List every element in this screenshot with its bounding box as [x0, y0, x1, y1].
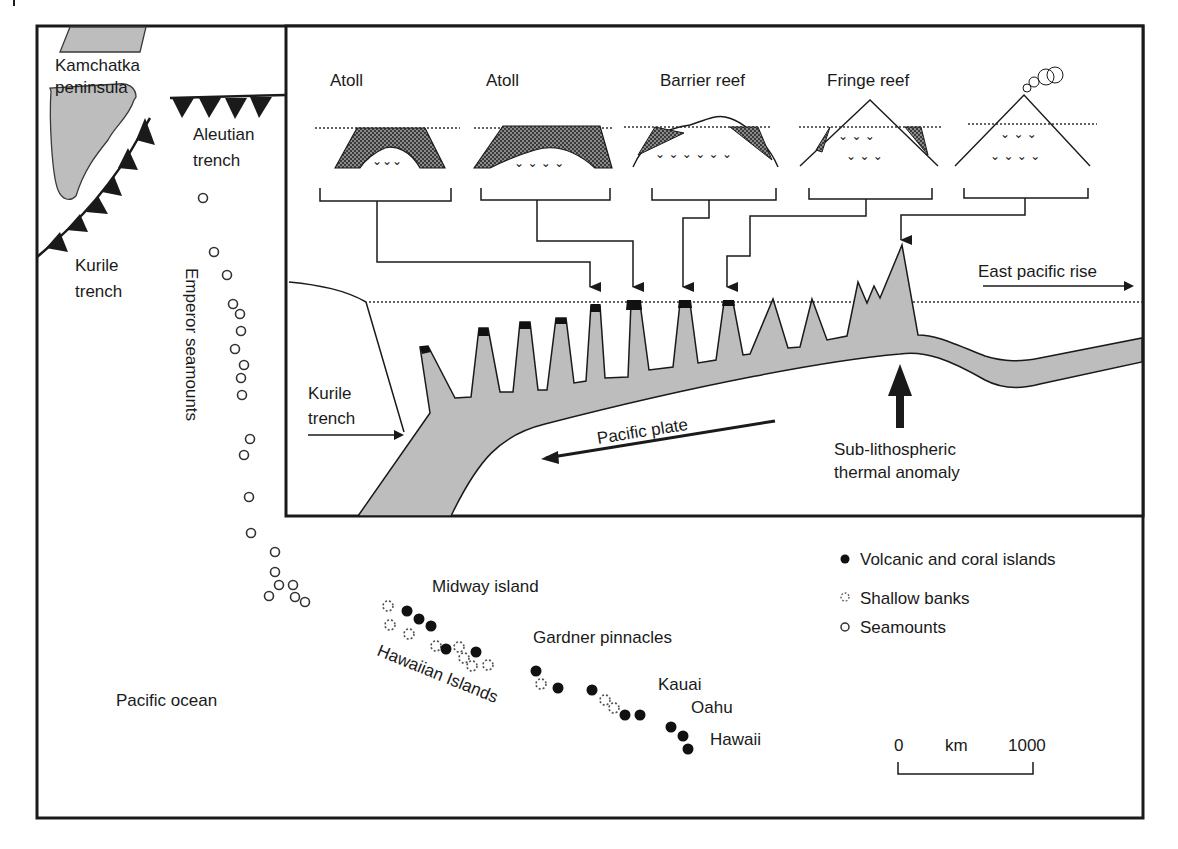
- stage-title-2: Atoll: [486, 71, 519, 90]
- legend: Volcanic and coral islands Shallow banks…: [841, 550, 1056, 637]
- stage-title-3: Barrier reef: [660, 71, 745, 90]
- inset-label-anomaly-2: thermal anomaly: [834, 463, 960, 482]
- hawaiian-emperor-chain-diagram: Kamchatka peninsula Aleutian trench Kuri…: [0, 0, 1178, 849]
- svg-text:⌄ ⌄ ⌄ ⌄: ⌄ ⌄ ⌄ ⌄: [990, 149, 1040, 163]
- legend-shallow-icon: [841, 593, 849, 601]
- legend-volcanic-icon: [841, 555, 850, 564]
- svg-text:⌄ ⌄ ⌄: ⌄ ⌄ ⌄: [846, 149, 883, 163]
- scale-end: 1000: [1008, 736, 1046, 755]
- inset-label-anomaly-1: Sub-lithospheric: [834, 440, 956, 459]
- label-hawaiian-islands: Hawaiian Islands: [375, 641, 501, 707]
- label-kamchatka-1: Kamchatka: [55, 56, 141, 75]
- inset-label-east-pacific-rise: East pacific rise: [978, 262, 1097, 281]
- aleutian-trench-symbol: [170, 95, 286, 119]
- stage-title-1: Atoll: [330, 71, 363, 90]
- label-kurile-1: Kurile: [75, 256, 118, 275]
- legend-seamount-label: Seamounts: [860, 618, 946, 637]
- label-emperor-seamounts: Emperor seamounts: [182, 268, 201, 421]
- legend-volcanic-label: Volcanic and coral islands: [860, 550, 1056, 569]
- scale-bar: 0 km 1000: [894, 736, 1046, 774]
- corner-mark: [13, 0, 15, 6]
- label-midway: Midway island: [432, 577, 539, 596]
- svg-text:⌄ ⌄ ⌄ ⌄ ⌄ ⌄: ⌄ ⌄ ⌄ ⌄ ⌄ ⌄: [655, 147, 732, 161]
- label-oahu: Oahu: [691, 698, 733, 717]
- label-aleutian-2: trench: [193, 151, 240, 170]
- label-aleutian-1: Aleutian: [193, 125, 254, 144]
- label-kurile-2: trench: [75, 282, 122, 301]
- inset-label-kurile-2: trench: [308, 409, 355, 428]
- legend-shallow-label: Shallow banks: [860, 589, 970, 608]
- svg-text:⌄ ⌄ ⌄: ⌄ ⌄ ⌄: [838, 129, 875, 143]
- legend-seamount-icon: [841, 623, 849, 631]
- label-hawaii: Hawaii: [710, 730, 761, 749]
- inset-panel: Atoll Atoll Barrier reef Fringe reef ⌄⌄⌄…: [286, 26, 1143, 516]
- scale-start: 0: [894, 736, 903, 755]
- label-pacific-ocean: Pacific ocean: [116, 691, 217, 710]
- svg-text:⌄⌄⌄: ⌄⌄⌄: [372, 154, 402, 168]
- svg-text:⌄ ⌄ ⌄ ⌄: ⌄ ⌄ ⌄ ⌄: [514, 156, 564, 170]
- scale-unit: km: [945, 736, 968, 755]
- inset-label-kurile-1: Kurile: [308, 384, 351, 403]
- stage-title-4: Fringe reef: [827, 71, 909, 90]
- svg-text:⌄ ⌄ ⌄: ⌄ ⌄ ⌄: [1000, 127, 1037, 141]
- label-kamchatka-2: peninsula: [55, 78, 128, 97]
- label-kauai: Kauai: [658, 675, 701, 694]
- label-gardner-pinnacles: Gardner pinnacles: [533, 628, 672, 647]
- kamchatka-landmass: [50, 27, 146, 199]
